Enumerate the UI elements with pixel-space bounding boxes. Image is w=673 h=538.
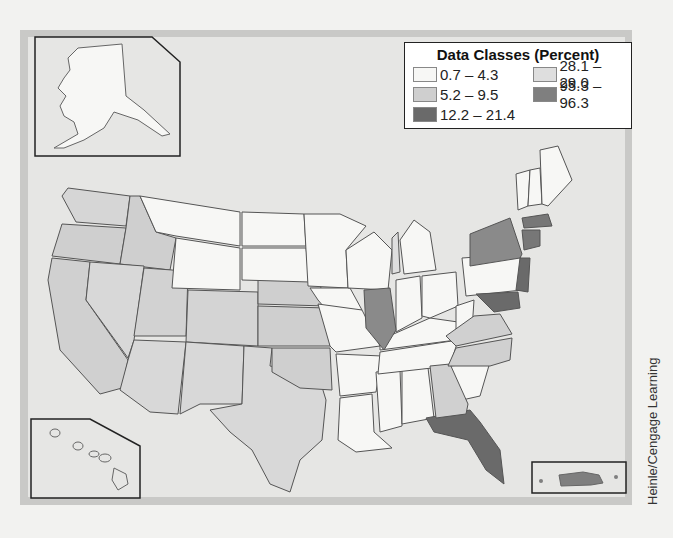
state-or xyxy=(52,224,126,264)
state-mi-lm xyxy=(392,232,400,274)
state-nd xyxy=(242,212,306,246)
state-ks xyxy=(258,306,330,346)
state-nm xyxy=(180,342,244,414)
state-fl xyxy=(426,410,504,484)
state-mi xyxy=(400,220,436,274)
state-sd xyxy=(242,248,310,282)
state-md xyxy=(476,292,520,312)
legend-item: 95.3 – 96.3 xyxy=(533,84,633,104)
state-wa xyxy=(62,188,130,226)
legend-item: 12.2 – 21.4 xyxy=(413,104,533,124)
legend: Data Classes (Percent) 0.7 – 4.3 28.1 – … xyxy=(404,42,632,129)
legend-swatch xyxy=(413,107,437,122)
legend-swatch xyxy=(413,67,437,82)
state-ny xyxy=(470,218,522,266)
state-al xyxy=(402,368,434,424)
state-ma xyxy=(522,214,552,228)
state-co xyxy=(186,290,258,346)
credit-text: Heinle/Cengage Learning xyxy=(645,358,660,505)
state-ms xyxy=(376,370,402,432)
state-me xyxy=(540,146,572,206)
legend-swatch xyxy=(533,87,557,102)
legend-swatch xyxy=(533,67,557,82)
state-ar xyxy=(336,354,382,396)
legend-swatch xyxy=(413,87,437,102)
legend-item: 0.7 – 4.3 xyxy=(413,64,533,84)
state-wy xyxy=(172,238,240,290)
state-nh xyxy=(528,168,542,206)
state-oh xyxy=(422,272,458,318)
legend-item: 5.2 – 9.5 xyxy=(413,84,533,104)
state-ct xyxy=(522,230,540,250)
